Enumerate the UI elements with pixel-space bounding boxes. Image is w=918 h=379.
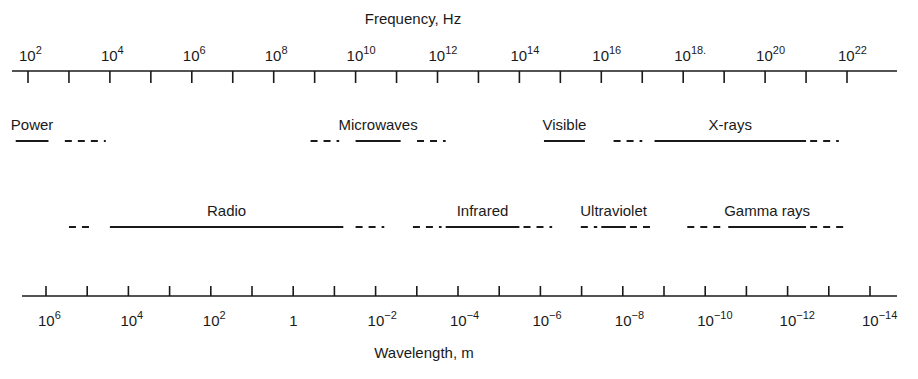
electromagnetic-spectrum-diagram: Frequency, Hz 10210410610810101012101410… [0, 0, 918, 379]
wavelength-axis-title: Wavelength, m [374, 344, 474, 361]
frequency-tick-label: 106 [183, 44, 206, 64]
frequency-tick-label: 102 [19, 44, 42, 64]
band-label: Power [11, 116, 54, 133]
wavelength-tick-label: 102 [203, 309, 226, 329]
wavelength-tick-label: 10−12 [780, 309, 815, 329]
band-label: Ultraviolet [580, 202, 648, 219]
frequency-tick-label: 1016 [592, 44, 621, 64]
band-label: Infrared [457, 202, 509, 219]
frequency-tick-label: 1014 [510, 44, 539, 64]
wavelength-tick-label: 104 [120, 309, 143, 329]
frequency-tick-label: 1010 [347, 44, 376, 64]
frequency-tick-label: 1012 [429, 44, 458, 64]
frequency-ticks [28, 71, 847, 83]
band-label: Visible [542, 116, 586, 133]
wavelength-ticks [46, 286, 870, 296]
frequency-tick-label: 1022 [838, 44, 867, 64]
band-label: Radio [207, 202, 246, 219]
wavelength-tick-label: 1 [289, 312, 297, 329]
band-label: X-rays [709, 116, 752, 133]
frequency-tick-label: 108 [265, 44, 288, 64]
band-power: Power [11, 116, 106, 141]
band-x-rays: X-rays [614, 116, 839, 141]
wavelength-tick-label: 10−14 [862, 309, 897, 329]
wavelength-tick-label: 106 [38, 309, 61, 329]
band-ultraviolet: Ultraviolet [580, 202, 654, 227]
wavelength-tick-label: 10−4 [450, 309, 479, 329]
wavelength-tick-label: 10−8 [615, 309, 644, 329]
band-microwaves: Microwaves [311, 116, 446, 141]
wavelength-tick-labels: 106104102110−210−410−610−810−1010−1210−1… [38, 309, 897, 329]
frequency-tick-label: 1020 [756, 44, 785, 64]
spectrum-bands: PowerMicrowavesVisibleX-raysRadioInfrare… [11, 116, 847, 227]
frequency-tick-labels: 10210410610810101012101410161018.1020102… [19, 44, 867, 64]
wavelength-tick-label: 10−10 [697, 309, 732, 329]
band-label: Microwaves [339, 116, 418, 133]
frequency-tick-label: 104 [101, 44, 124, 64]
band-label: Gamma rays [724, 202, 810, 219]
band-infrared: Infrared [413, 202, 552, 227]
frequency-tick-label: 1018. [674, 44, 706, 64]
frequency-axis-title: Frequency, Hz [365, 10, 461, 27]
band-gamma-rays: Gamma rays [687, 202, 847, 227]
wavelength-tick-label: 10−2 [368, 309, 397, 329]
wavelength-tick-label: 10−6 [532, 309, 561, 329]
band-visible: Visible [542, 116, 586, 141]
band-radio: Radio [69, 202, 384, 227]
